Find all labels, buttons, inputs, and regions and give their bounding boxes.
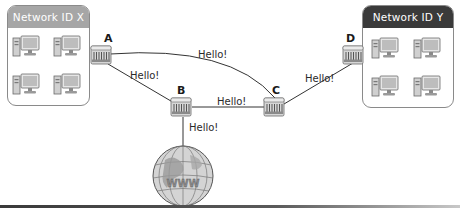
link-a-c-label: Hello! [198,49,227,60]
computer-icon [372,76,398,96]
computer-icon [414,38,440,58]
globe-icon: WWW [153,146,213,206]
router-b-label: B [177,84,185,97]
computer-icon [54,36,80,56]
computer-icon [54,74,80,94]
router-icon [171,98,191,116]
computer-icon [13,74,39,94]
network-diagram: Network ID X Network ID Y [0,0,460,212]
computer-icon [414,76,440,96]
router-icon [343,46,363,64]
link-a-b-label: Hello! [130,70,159,81]
link-b-c-label: Hello! [217,96,246,107]
router-icon [91,46,111,64]
svg-text:WWW: WWW [166,178,199,189]
computer-icon [13,36,39,56]
router-icon [264,98,284,116]
link-b-internet-label: Hello! [189,122,218,133]
link-c-d-label: Hello! [305,73,334,84]
bottom-divider [0,205,460,208]
router-c-label: C [272,84,280,97]
computer-icon [372,38,398,58]
router-a-label: A [104,32,113,45]
router-d-label: D [346,32,355,45]
